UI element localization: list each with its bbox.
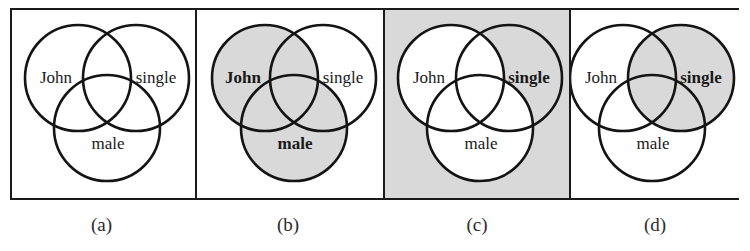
panel-a-background — [12, 10, 195, 198]
label-single-c: single — [508, 68, 550, 87]
panel-b[interactable]: John single male — [195, 10, 383, 198]
label-john-c: John — [413, 68, 446, 87]
caption-b: (b) — [193, 203, 383, 247]
label-single-b: single — [323, 68, 364, 87]
caption-a: (a) — [10, 203, 193, 247]
label-single-d: single — [680, 68, 722, 87]
panel-c[interactable]: John single male — [383, 10, 569, 198]
label-male-a: male — [91, 134, 124, 153]
caption-row: (a) (b) (c) (d) — [10, 203, 739, 247]
label-male-d: male — [636, 134, 669, 153]
label-male-b: male — [278, 134, 313, 153]
venn-diagram-a: John single male — [12, 10, 195, 198]
venn-figure: John single male John single male — [0, 0, 750, 251]
panel-a[interactable]: John single male — [12, 10, 195, 198]
label-john-d: John — [585, 68, 618, 87]
venn-diagram-b: John single male — [197, 10, 383, 198]
label-john-b: John — [225, 68, 261, 87]
label-single-a: single — [136, 68, 177, 87]
venn-diagram-c: John single male — [385, 10, 569, 198]
panel-strip: John single male John single male — [10, 8, 739, 200]
shaded-region-complement-john-male-c — [385, 10, 569, 198]
venn-diagram-d: John single male — [571, 10, 739, 198]
panel-d[interactable]: John single male — [569, 10, 739, 198]
label-male-c: male — [464, 134, 497, 153]
caption-d: (d) — [571, 203, 739, 247]
label-john-a: John — [40, 68, 73, 87]
caption-c: (c) — [383, 203, 571, 247]
